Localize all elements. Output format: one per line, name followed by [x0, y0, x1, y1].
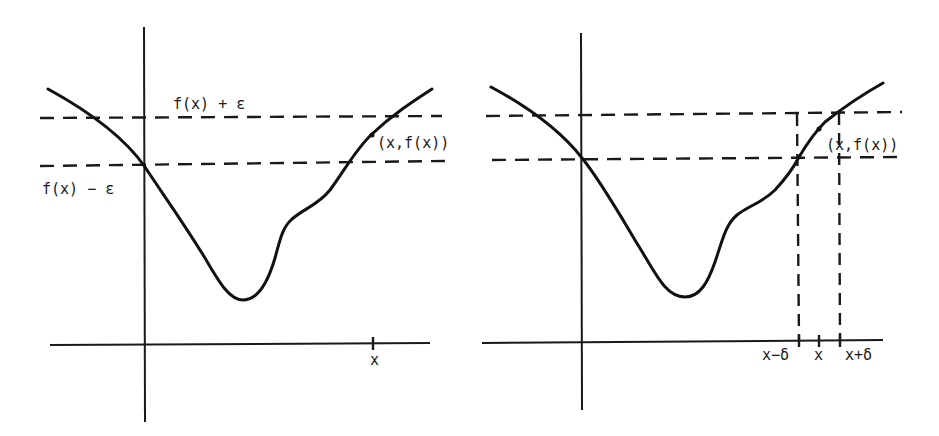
right-point-marker [817, 127, 822, 132]
right-x-plus-delta-label: x+δ [845, 346, 872, 364]
right-panel: (x,f(x)) x−δ x x+δ [482, 33, 902, 410]
left-upper-epsilon-line [40, 116, 442, 118]
left-x-label: x [370, 351, 379, 369]
left-panel: f(x) + ε f(x) − ε (x,f(x)) x [40, 27, 449, 422]
left-point-marker [370, 133, 375, 138]
left-y-axis [144, 27, 145, 422]
right-x-minus-delta-line [797, 114, 799, 340]
right-x-minus-delta-label: x−δ [762, 346, 789, 364]
right-y-axis [581, 33, 582, 410]
epsilon-delta-diagram: f(x) + ε f(x) − ε (x,f(x)) x (x,f(x)) x−… [0, 0, 939, 436]
right-function-curve [491, 83, 883, 297]
right-lower-epsilon-line [492, 157, 898, 160]
right-point-label: (x,f(x)) [826, 136, 898, 154]
left-lower-band-label: f(x) − ε [42, 180, 114, 198]
left-point-label: (x,f(x)) [377, 134, 449, 152]
right-x-axis [482, 340, 883, 343]
right-x-label: x [814, 346, 823, 364]
left-upper-band-label: f(x) + ε [173, 95, 245, 113]
left-lower-epsilon-line [40, 161, 445, 166]
